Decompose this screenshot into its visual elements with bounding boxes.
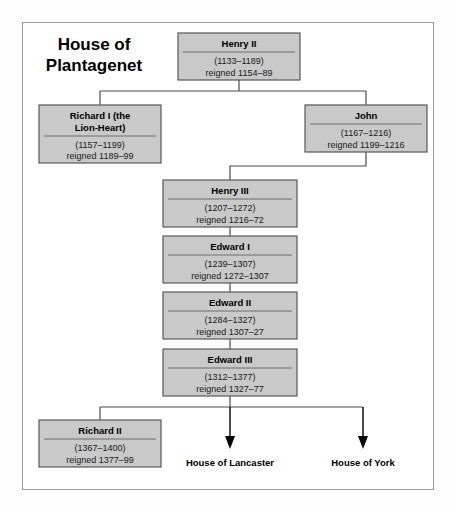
node-reign: reigned 1377–99 bbox=[66, 455, 134, 465]
title-line-2: Plantagenet bbox=[46, 56, 143, 75]
node-name: Edward I bbox=[210, 241, 250, 252]
node-reign: reigned 1272–1307 bbox=[191, 271, 269, 281]
house-arrow-lancaster bbox=[225, 407, 235, 449]
node-name-line-1: Richard I (the bbox=[70, 110, 131, 121]
node-reign: reigned 1199–1216 bbox=[328, 140, 405, 150]
node-lifespan: (1133–1189) bbox=[214, 56, 264, 66]
node-reign: reigned 1327–77 bbox=[196, 384, 264, 394]
house-arrow-york bbox=[358, 407, 368, 449]
diagram-canvas: House of Plantagenet Henry II (1133–1189… bbox=[0, 0, 454, 512]
node-reign: reigned 1154–89 bbox=[206, 68, 273, 78]
node-name: Richard II bbox=[78, 425, 121, 436]
node-lifespan: (1284–1327) bbox=[204, 315, 255, 325]
node-name: Edward II bbox=[209, 297, 251, 308]
node-henry-iii[interactable]: Henry III (1207–1272) reigned 1216–72 bbox=[163, 180, 297, 227]
node-lifespan: (1207–1272) bbox=[204, 203, 255, 213]
node-edward-i[interactable]: Edward I (1239–1307) reigned 1272–1307 bbox=[163, 236, 297, 283]
label-house-of-york: House of York bbox=[331, 457, 395, 468]
connector-john-to-henry-iii bbox=[230, 152, 366, 180]
node-john[interactable]: John (1167–1216) reigned 1199–1216 bbox=[305, 105, 427, 152]
title-line-1: House of bbox=[58, 35, 131, 54]
node-name: Edward III bbox=[208, 354, 253, 365]
node-richard-i[interactable]: Richard I (the Lion-Heart) (1157–1199) r… bbox=[39, 105, 161, 163]
node-henry-ii[interactable]: Henry II (1133–1189) reigned 1154–89 bbox=[178, 33, 300, 80]
node-reign: reigned 1216–72 bbox=[196, 215, 264, 225]
label-house-of-lancaster: House of Lancaster bbox=[186, 457, 274, 468]
node-edward-ii[interactable]: Edward II (1284–1327) reigned 1307–27 bbox=[163, 292, 297, 339]
node-edward-iii[interactable]: Edward III (1312–1377) reigned 1327–77 bbox=[163, 349, 297, 396]
diagram-title: House of Plantagenet bbox=[46, 35, 143, 75]
node-lifespan: (1312–1377) bbox=[204, 372, 255, 382]
node-name-line-2: Lion-Heart) bbox=[75, 122, 126, 133]
family-tree-svg: House of Plantagenet Henry II (1133–1189… bbox=[0, 0, 454, 512]
node-lifespan: (1157–1199) bbox=[75, 140, 125, 150]
node-lifespan: (1167–1216) bbox=[341, 128, 391, 138]
node-lifespan: (1367–1400) bbox=[74, 443, 125, 453]
node-richard-ii[interactable]: Richard II (1367–1400) reigned 1377–99 bbox=[39, 420, 161, 467]
node-reign: reigned 1189–99 bbox=[67, 151, 134, 161]
node-reign: reigned 1307–27 bbox=[196, 327, 264, 337]
node-name: Henry II bbox=[222, 38, 257, 49]
node-name: Henry III bbox=[211, 185, 249, 196]
node-name: John bbox=[355, 110, 378, 121]
node-lifespan: (1239–1307) bbox=[204, 259, 255, 269]
